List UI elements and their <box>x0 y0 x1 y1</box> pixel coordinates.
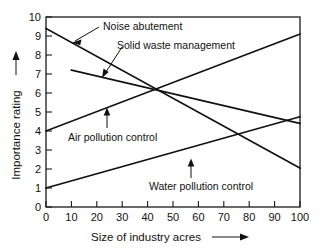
x-tick-label-60: 60 <box>192 211 204 223</box>
y-tick-label-8: 8 <box>35 49 41 61</box>
series-label-solid-waste-management: Solid waste management <box>117 39 235 51</box>
x-tick-label-20: 20 <box>91 211 103 223</box>
y-axis-title: Importance rating <box>10 90 22 180</box>
x-tick-label-80: 80 <box>243 211 255 223</box>
x-tick-label-0: 0 <box>43 211 49 223</box>
y-tick-label-3: 3 <box>35 144 41 156</box>
y-tick-label-1: 1 <box>35 182 41 194</box>
y-axis-tick-labels: 0 1 2 3 4 5 6 7 8 9 10 <box>29 11 41 213</box>
chart-figure: 0 1 2 3 4 5 6 7 8 9 10 0 <box>0 0 324 249</box>
x-axis-arrow-icon <box>240 233 249 240</box>
x-tick-label-50: 50 <box>167 211 179 223</box>
y-tick-label-9: 9 <box>35 30 41 42</box>
y-tick-label-6: 6 <box>35 87 41 99</box>
x-tick-label-70: 70 <box>218 211 230 223</box>
x-axis-ticks <box>46 201 300 207</box>
line-chart: 0 1 2 3 4 5 6 7 8 9 10 0 <box>0 0 324 249</box>
x-axis-tick-labels: 0 10 20 30 40 50 60 70 80 90 100 <box>43 211 309 223</box>
y-tick-label-5: 5 <box>35 106 41 118</box>
y-tick-label-10: 10 <box>29 11 41 23</box>
x-tick-label-30: 30 <box>116 211 128 223</box>
x-axis-title-group: Size of industry acres <box>91 231 249 243</box>
series-label-noise-abutement: Noise abutement <box>103 20 182 32</box>
x-tick-label-100: 100 <box>291 211 309 223</box>
y-axis-title-group: Importance rating <box>10 51 22 180</box>
series-line-water-pollution-control <box>46 117 300 188</box>
y-tick-label-0: 0 <box>35 201 41 213</box>
x-tick-label-40: 40 <box>141 211 153 223</box>
x-tick-label-10: 10 <box>65 211 77 223</box>
y-tick-label-2: 2 <box>35 163 41 175</box>
y-tick-label-7: 7 <box>35 68 41 80</box>
y-axis-arrow-icon <box>12 51 19 60</box>
x-axis-title: Size of industry acres <box>91 231 201 243</box>
y-axis-ticks <box>46 17 52 207</box>
data-series <box>46 28 300 188</box>
series-label-air-pollution-control: Air pollution control <box>68 131 157 143</box>
y-tick-label-4: 4 <box>35 125 41 137</box>
x-tick-label-90: 90 <box>268 211 280 223</box>
series-label-water-pollution-control: Water pollution control <box>149 180 253 192</box>
leader-noise-abutement <box>75 27 99 41</box>
leader-arrowhead-water-pollution-control <box>188 159 195 167</box>
